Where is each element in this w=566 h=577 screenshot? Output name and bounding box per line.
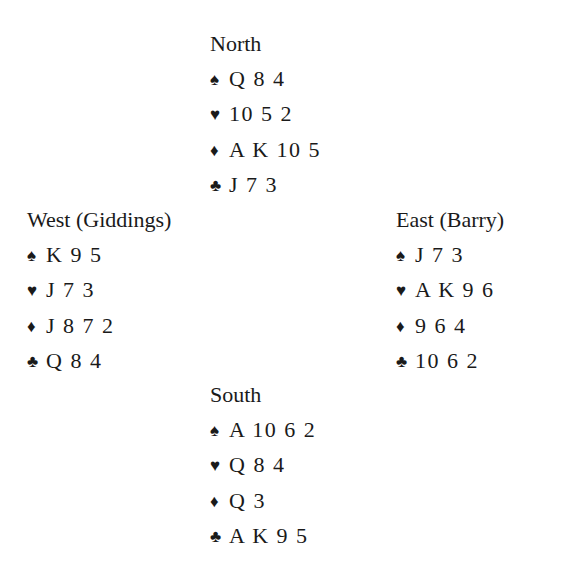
south-diamonds-row: ♦Q 3 (210, 484, 316, 520)
east-hearts-row: ♥A K 9 6 (396, 273, 504, 309)
club-icon: ♣ (210, 520, 229, 555)
west-spades: K 9 5 (46, 242, 102, 267)
north-spades: Q 8 4 (229, 66, 285, 91)
south-diamonds: Q 3 (229, 488, 266, 513)
east-diamonds-row: ♦9 6 4 (396, 309, 504, 345)
diamond-icon: ♦ (210, 134, 229, 169)
north-diamonds-row: ♦A K 10 5 (210, 133, 321, 169)
east-label: East (Barry) (396, 203, 504, 238)
spade-icon: ♠ (27, 239, 46, 274)
south-hearts: Q 8 4 (229, 452, 285, 477)
diamond-icon: ♦ (210, 485, 229, 520)
spade-icon: ♠ (396, 239, 415, 274)
east-spades: J 7 3 (415, 242, 464, 267)
north-hand: North ♠Q 8 4 ♥10 5 2 ♦A K 10 5 ♣J 7 3 (210, 27, 321, 204)
north-hearts: 10 5 2 (229, 101, 293, 126)
diamond-icon: ♦ (27, 310, 46, 345)
diamond-icon: ♦ (396, 310, 415, 345)
south-label: South (210, 378, 316, 413)
south-hand: South ♠A 10 6 2 ♥Q 8 4 ♦Q 3 ♣A K 9 5 (210, 378, 316, 555)
east-hand: East (Barry) ♠J 7 3 ♥A K 9 6 ♦9 6 4 ♣10 … (396, 203, 504, 380)
spade-icon: ♠ (210, 63, 229, 98)
spade-icon: ♠ (210, 414, 229, 449)
east-spades-row: ♠J 7 3 (396, 238, 504, 274)
heart-icon: ♥ (27, 274, 46, 309)
east-clubs-row: ♣10 6 2 (396, 344, 504, 380)
west-clubs: Q 8 4 (46, 348, 102, 373)
club-icon: ♣ (210, 169, 229, 204)
west-diamonds: J 8 7 2 (46, 313, 115, 338)
heart-icon: ♥ (396, 274, 415, 309)
west-clubs-row: ♣Q 8 4 (27, 344, 171, 380)
south-clubs: A K 9 5 (229, 523, 309, 548)
west-spades-row: ♠K 9 5 (27, 238, 171, 274)
heart-icon: ♥ (210, 449, 229, 484)
west-diamonds-row: ♦J 8 7 2 (27, 309, 171, 345)
west-label: West (Giddings) (27, 203, 171, 238)
south-spades-row: ♠A 10 6 2 (210, 413, 316, 449)
west-hearts-row: ♥J 7 3 (27, 273, 171, 309)
east-diamonds: 9 6 4 (415, 313, 467, 338)
north-diamonds: A K 10 5 (229, 137, 321, 162)
club-icon: ♣ (396, 345, 415, 380)
north-spades-row: ♠Q 8 4 (210, 62, 321, 98)
north-clubs: J 7 3 (229, 172, 278, 197)
club-icon: ♣ (27, 345, 46, 380)
east-hearts: A K 9 6 (415, 277, 495, 302)
south-clubs-row: ♣A K 9 5 (210, 519, 316, 555)
heart-icon: ♥ (210, 98, 229, 133)
west-hearts: J 7 3 (46, 277, 95, 302)
north-label: North (210, 27, 321, 62)
south-hearts-row: ♥Q 8 4 (210, 448, 316, 484)
east-clubs: 10 6 2 (415, 348, 479, 373)
west-hand: West (Giddings) ♠K 9 5 ♥J 7 3 ♦J 8 7 2 ♣… (27, 203, 171, 380)
south-spades: A 10 6 2 (229, 417, 316, 442)
north-hearts-row: ♥10 5 2 (210, 97, 321, 133)
north-clubs-row: ♣J 7 3 (210, 168, 321, 204)
